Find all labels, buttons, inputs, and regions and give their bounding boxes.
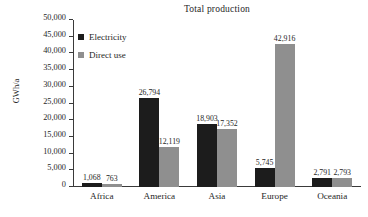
bar-group: 2,7912,793 (303, 20, 361, 187)
bar-value-label: 2,791 (313, 168, 331, 177)
bar-value-label: 12,119 (159, 137, 180, 146)
chart-title: Total production (73, 4, 361, 14)
chart-container: Total production GWh/a 05,00010,00015,00… (0, 0, 368, 217)
y-axis-tick-label: 45,000 (43, 30, 66, 39)
bar-value-label: 2,793 (333, 168, 351, 177)
x-axis-label-asia: Asia (209, 191, 226, 201)
y-axis-tick-label: 0 (62, 180, 66, 189)
bar-pair: 26,79412,119 (139, 20, 179, 187)
bar-direct-use[interactable]: 2,793 (332, 178, 352, 187)
bar-electricity[interactable]: 18,903 (197, 124, 217, 187)
bar-group: 5,74542,916 (246, 20, 304, 187)
x-axis-label-america: America (144, 191, 176, 201)
legend-entry-electricity[interactable]: Electricity (78, 32, 126, 42)
bar-electricity[interactable]: 5,745 (255, 168, 275, 187)
x-axis-label-europe: Europe (261, 191, 288, 201)
y-axis-tick-label: 50,000 (43, 13, 66, 22)
bar-direct-use[interactable]: 17,352 (217, 129, 237, 187)
bar-pair: 5,74542,916 (255, 20, 295, 187)
legend-swatch-icon (78, 52, 84, 58)
bar-value-label: 5,745 (256, 158, 274, 167)
bar-electricity[interactable]: 26,794 (139, 98, 159, 187)
legend-label: Direct use (89, 50, 126, 60)
y-axis-tick-label: 5,000 (47, 163, 66, 172)
bar-value-label: 26,794 (139, 88, 160, 97)
y-axis-tick-label: 40,000 (43, 46, 66, 55)
bar-group: 18,90317,352 (188, 20, 246, 187)
bar-direct-use[interactable]: 42,916 (275, 44, 295, 187)
bar-direct-use[interactable]: 763 (102, 184, 122, 187)
bar-pair: 2,7912,793 (312, 20, 352, 187)
y-axis-tick-label: 15,000 (43, 130, 66, 139)
bar-group: 26,79412,119 (131, 20, 189, 187)
x-axis-label-oceania: Oceania (317, 191, 347, 201)
legend-label: Electricity (89, 32, 126, 42)
x-axis-label-africa: Africa (90, 191, 113, 201)
y-axis-title: GWh/a (11, 61, 21, 121)
bar-electricity[interactable]: 1,068 (82, 183, 102, 187)
chart-legend: ElectricityDirect use (78, 32, 126, 68)
bar-pair: 18,90317,352 (197, 20, 237, 187)
bar-value-label: 1,068 (83, 173, 101, 182)
bar-direct-use[interactable]: 12,119 (159, 147, 179, 187)
bar-value-label: 763 (106, 174, 118, 183)
y-axis-tick-label: 35,000 (43, 63, 66, 72)
bar-value-label: 18,903 (196, 114, 217, 123)
bar-value-label: 42,916 (274, 34, 295, 43)
y-axis-tick-label: 10,000 (43, 147, 66, 156)
y-axis-tick-label: 20,000 (43, 113, 66, 122)
y-axis-tick-label: 30,000 (43, 80, 66, 89)
legend-swatch-icon (78, 34, 84, 40)
bar-electricity[interactable]: 2,791 (312, 178, 332, 187)
y-axis-tick-label: 25,000 (43, 97, 66, 106)
legend-entry-direct-use[interactable]: Direct use (78, 50, 126, 60)
bar-value-label: 17,352 (216, 119, 237, 128)
